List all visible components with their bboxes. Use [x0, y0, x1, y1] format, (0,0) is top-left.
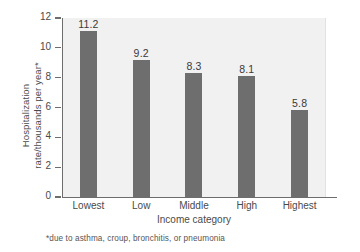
y-axis-title-line2: rate/thousands per year* — [31, 36, 43, 196]
x-axis-tick-label: Highest — [273, 200, 326, 211]
y-axis-tick-mark — [55, 47, 61, 48]
bar-rect[interactable] — [80, 31, 97, 197]
x-axis-title: Income category — [62, 214, 326, 225]
bar-rect[interactable] — [133, 60, 150, 197]
y-axis-tick-mark — [55, 77, 61, 78]
y-axis-title-line1: Hospitalization — [20, 36, 32, 196]
chart-footnote: *due to asthma, croup, bronchitis, or pn… — [46, 234, 225, 243]
y-axis-tick-label: 2 — [0, 160, 51, 171]
y-axis-tick-mark — [55, 137, 61, 138]
bar-value-label: 11.2 — [78, 18, 98, 30]
y-axis-tick-mark — [55, 167, 61, 168]
x-axis-tick-label: Low — [115, 200, 168, 211]
y-axis-tick-label: 4 — [0, 130, 51, 141]
y-axis-tick-label: 8 — [0, 71, 51, 82]
bar-item[interactable]: 8.1 — [220, 18, 273, 197]
y-axis-tick-mark — [55, 196, 61, 197]
y-axis-title: Hospitalization rate/thousands per year* — [20, 36, 43, 196]
x-axis-tick-label: High — [220, 200, 273, 211]
bar-rect[interactable] — [238, 76, 255, 197]
bar-value-label: 8.1 — [239, 63, 254, 75]
x-axis-tick-label: Middle — [168, 200, 221, 211]
y-axis-tick-mark — [55, 17, 61, 18]
y-axis-tick-label: 12 — [0, 11, 51, 22]
y-axis-tick-label: 0 — [0, 190, 51, 201]
bar-value-label: 9.2 — [134, 47, 149, 59]
bar-item[interactable]: 8.3 — [168, 18, 221, 197]
y-axis-tick-label: 6 — [0, 101, 51, 112]
bar-series: 11.29.28.38.15.8 — [62, 18, 326, 197]
bar-rect[interactable] — [291, 110, 308, 197]
x-axis-tick-label: Lowest — [62, 200, 115, 211]
bar-rect[interactable] — [185, 73, 202, 197]
bar-value-label: 5.8 — [292, 97, 307, 109]
bar-item[interactable]: 5.8 — [273, 18, 326, 197]
bar-item[interactable]: 9.2 — [115, 18, 168, 197]
bar-value-label: 8.3 — [186, 60, 201, 72]
bar-chart-figure: Hospitalization rate/thousands per year*… — [0, 0, 360, 252]
y-axis-tick-label: 10 — [0, 41, 51, 52]
y-axis-tick-mark — [55, 107, 61, 108]
bar-item[interactable]: 11.2 — [62, 18, 115, 197]
